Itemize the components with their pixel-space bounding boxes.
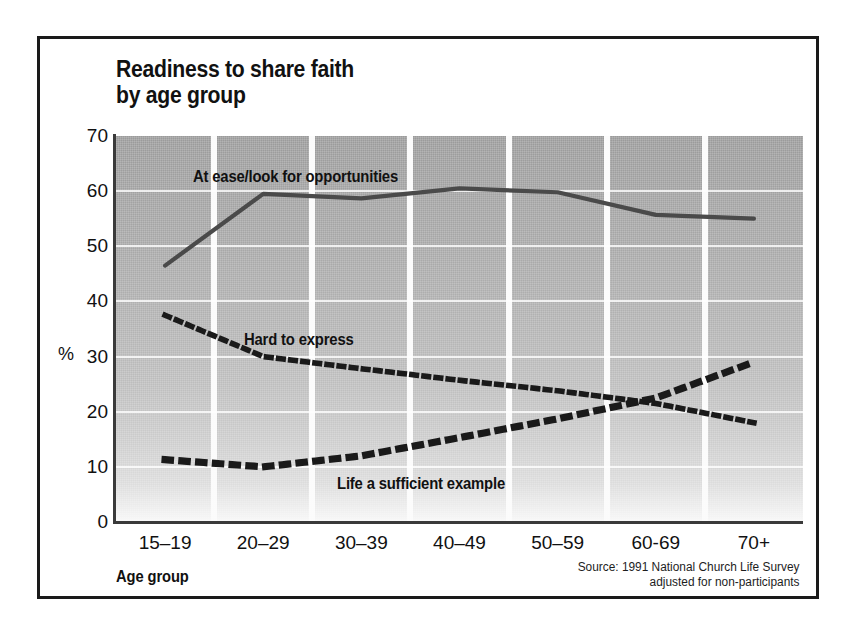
x-tick-label: 30–39 (335, 532, 388, 554)
source-line-2: adjusted for non-participants (577, 575, 799, 590)
x-axis-line (113, 521, 803, 524)
chart-title: Readiness to share faith by age group (116, 56, 636, 108)
series-line-at-ease (165, 188, 754, 265)
source-line-1: Source: 1991 National Church Life Survey (577, 560, 799, 575)
y-tick-label: 60 (64, 181, 108, 200)
x-tick-label: 70+ (738, 532, 770, 554)
y-axis-label: % (58, 344, 92, 365)
y-tick-label: 70 (64, 126, 108, 145)
series-lines (116, 136, 803, 522)
x-axis-tick-labels: 15–1920–2930–3940–4950–5960-6970+ (116, 532, 803, 560)
series-annotation-hard-to-express: Hard to express (244, 330, 354, 349)
plot-area: At ease/look for opportunities Hard to e… (116, 136, 803, 522)
y-tick-label: 50 (64, 236, 108, 255)
chart-title-line-1: Readiness to share faith (116, 56, 584, 82)
y-tick-label: 40 (64, 291, 108, 310)
y-tick-label: 0 (64, 512, 108, 531)
chart-title-line-2: by age group (116, 82, 584, 108)
y-tick-label: 10 (64, 457, 108, 476)
x-tick-label: 60-69 (631, 532, 680, 554)
x-tick-label: 15–19 (139, 532, 192, 554)
y-axis-line (113, 134, 116, 524)
series-annotation-life-sufficient: Life a sufficient example (337, 474, 505, 493)
x-tick-label: 40–49 (433, 532, 486, 554)
source-note: Source: 1991 National Church Life Survey… (577, 560, 799, 590)
series-annotation-at-ease: At ease/look for opportunities (193, 167, 398, 186)
x-axis-title: Age group (116, 568, 189, 586)
y-tick-label: 20 (64, 402, 108, 421)
x-tick-label: 50–59 (531, 532, 584, 554)
chart-figure: Readiness to share faith by age group At… (0, 0, 857, 636)
y-axis-tick-labels: 706050403020100 (58, 0, 108, 636)
x-tick-label: 20–29 (237, 532, 290, 554)
